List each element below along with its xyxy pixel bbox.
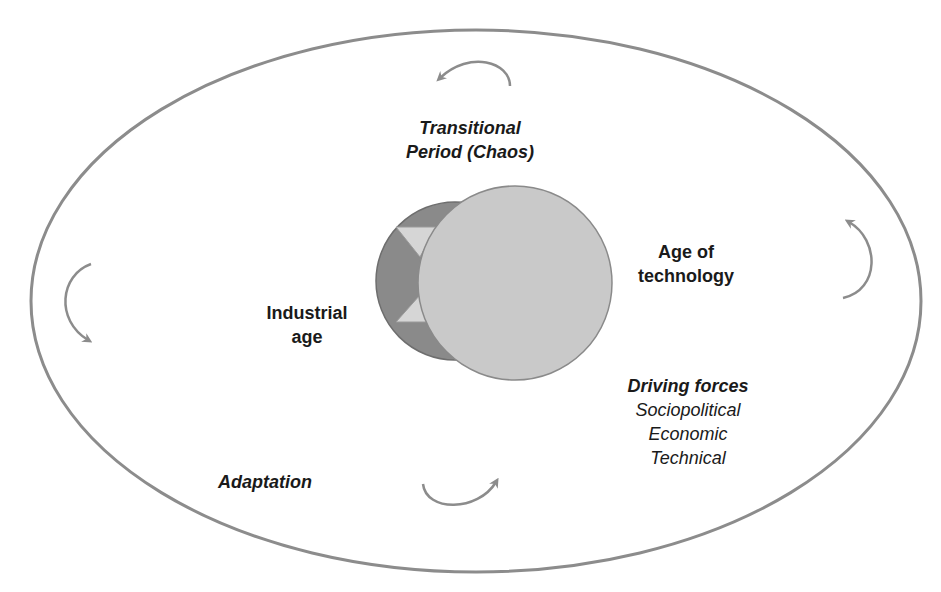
driving-forces-title: Driving forces [627,374,748,398]
driving-force-item: Sociopolitical [627,398,748,422]
driving-forces-block: Driving forces Sociopolitical Economic T… [627,374,748,470]
top-cycle-arrow-icon [440,62,510,86]
driving-force-item: Economic [627,422,748,446]
cycle-diagram [0,0,941,592]
age-of-technology-label: Age of technology [638,240,734,288]
adaptation-label: Adaptation [218,470,312,494]
driving-force-item: Technical [627,446,748,470]
bottom-cycle-arrow-icon [423,482,496,505]
industrial-age-label: Industrial age [266,301,347,349]
left-cycle-arrow-icon [65,264,91,340]
right-cycle-arrow-icon [843,222,872,298]
technology-age-circle [418,186,612,380]
transitional-period-label: Transitional Period (Chaos) [406,116,534,164]
